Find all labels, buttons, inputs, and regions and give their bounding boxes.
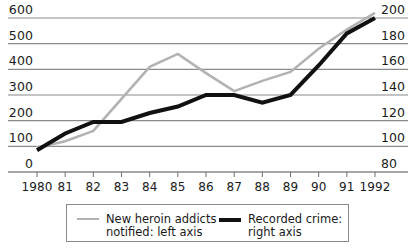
x-axis-tick-label: 1992 [355, 181, 395, 193]
series-line-heroin-addicts [37, 13, 375, 148]
gray-line-swatch-icon [77, 218, 99, 220]
y-axis-left-tick-label: 200 [0, 107, 33, 120]
y-axis-right-tick-label: 180 [381, 30, 415, 43]
y-axis-right-tick-label: 200 [381, 4, 415, 17]
y-axis-right-tick-label: 140 [381, 81, 415, 94]
legend-item-label: New heroin addicts notified: left axis [106, 213, 216, 238]
y-axis-right-tick-label: 100 [381, 132, 415, 145]
x-axis-ticks [37, 172, 375, 177]
series-line-recorded-crime [37, 18, 375, 150]
y-axis-left-tick-label: 500 [0, 30, 33, 43]
legend-item-label: Recorded crime: right axis [248, 213, 342, 238]
legend-item-heroin-addicts: New heroin addicts notified: left axis [77, 213, 216, 238]
y-axis-left-tick-label: 600 [0, 4, 33, 17]
chart-legend: New heroin addicts notified: left axis R… [66, 204, 349, 242]
y-axis-left-tick-label: 300 [0, 81, 33, 94]
legend-item-recorded-crime: Recorded crime: right axis [219, 213, 342, 238]
y-axis-left-tick-label: 400 [0, 55, 33, 68]
y-axis-left-tick-label: 100 [0, 132, 33, 145]
black-line-swatch-icon [219, 218, 241, 222]
data-series [37, 13, 375, 150]
y-axis-left-tick-label: 0 [0, 158, 33, 171]
y-axis-right-tick-label: 120 [381, 107, 415, 120]
y-axis-right-tick-label: 80 [381, 158, 415, 171]
y-axis-right-tick-label: 160 [381, 55, 415, 68]
chart-container: 6005004003002001000 20018016014012010080… [0, 0, 416, 248]
